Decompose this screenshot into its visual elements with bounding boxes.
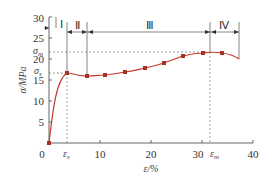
eps-s-label: εs [63, 148, 70, 161]
region-3-label: Ⅲ [146, 19, 154, 31]
y-tick-10: 10 [33, 95, 45, 107]
region-2-label: Ⅱ [75, 19, 80, 31]
axes [49, 17, 253, 143]
region-1-label: Ⅰ [60, 18, 63, 30]
region-4-label: Ⅳ [219, 19, 230, 31]
stress-strain-curve [49, 52, 239, 143]
y-tick-30: 30 [33, 12, 45, 24]
x-tick-20: 20 [146, 148, 158, 160]
y-tick-5: 5 [39, 116, 45, 128]
y-axis-title: σ/MPa [17, 66, 28, 93]
y-tick-25: 25 [33, 32, 45, 44]
eps-m-label: εm [210, 148, 219, 161]
x-tick-10: 10 [95, 148, 107, 160]
region-boundaries [44, 17, 239, 76]
reference-lines [49, 52, 210, 143]
x-tick-30: 30 [193, 148, 205, 160]
x-tick-0: 0 [39, 148, 45, 160]
x-axis-title: ε/% [143, 163, 158, 174]
stress-strain-chart: 5 10 15 20 25 30 0 10 20 30 40 ε/% σ/MPa… [0, 0, 275, 181]
data-markers [47, 51, 224, 145]
x-tick-40: 40 [248, 148, 260, 160]
